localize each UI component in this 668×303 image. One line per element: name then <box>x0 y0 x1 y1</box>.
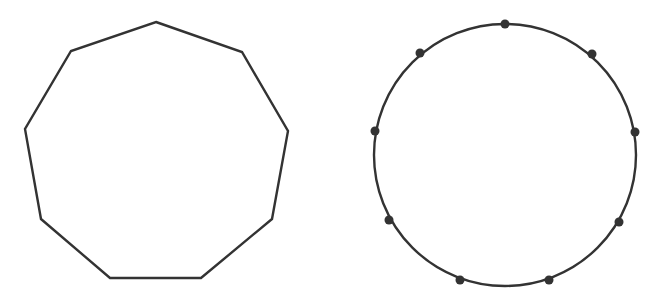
circle-point-dot <box>371 127 380 136</box>
circle-shape <box>374 24 636 286</box>
circle-point-dot <box>588 50 597 59</box>
circle-point-dot <box>615 218 624 227</box>
circle-point-dot <box>545 276 554 285</box>
circle-point-dot <box>456 276 465 285</box>
diagram-canvas <box>0 0 668 303</box>
circle-point-dot <box>501 20 510 29</box>
circle-point-dot <box>631 128 640 137</box>
circle-point-dot <box>416 49 425 58</box>
nonagon-shape <box>25 22 288 278</box>
circle-point-dot <box>385 216 394 225</box>
